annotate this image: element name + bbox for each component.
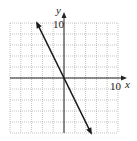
graph xyxy=(0,0,137,141)
line-arrow-end-icon xyxy=(86,127,92,135)
x-tick-label: 10 xyxy=(110,81,121,92)
x-axis-label: x xyxy=(125,79,130,90)
line-arrow-start-icon xyxy=(36,21,42,29)
y-tick-label: 10 xyxy=(53,19,64,30)
y-axis-label: y xyxy=(56,5,61,16)
